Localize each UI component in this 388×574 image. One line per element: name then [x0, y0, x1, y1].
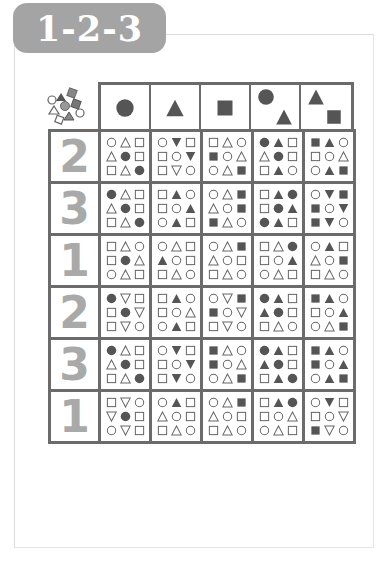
square-outline-icon [259, 255, 270, 266]
circle-outline-icon [208, 241, 219, 252]
puzzle-cell-r1-c5[interactable] [305, 132, 353, 181]
circle-outline-icon [324, 307, 335, 318]
puzzle-cell-r5-c1[interactable] [101, 340, 149, 389]
square-outline-icon [106, 321, 117, 332]
triangle-outline-icon [222, 269, 233, 280]
inverted-triangle-filled-icon [324, 189, 335, 200]
triangle-outline-icon [273, 321, 284, 332]
circle-outline-icon [171, 255, 182, 266]
circle-outline-icon [157, 321, 168, 332]
triangle-outline-icon [310, 255, 321, 266]
circle-outline-icon [208, 165, 219, 176]
square-outline-icon [287, 151, 298, 162]
puzzle-cell-r6-c1[interactable] [101, 392, 149, 441]
square-outline-icon [134, 359, 145, 370]
square-filled-icon [208, 359, 219, 370]
puzzle-cell-r3-c2[interactable] [152, 236, 200, 285]
square-outline-icon [185, 217, 196, 228]
puzzle-cell-r5-c2[interactable] [152, 340, 200, 389]
square-outline-icon [134, 189, 145, 200]
circle-outline-icon [222, 411, 233, 422]
square-outline-icon [157, 189, 168, 200]
row-number-label: 2 [59, 135, 90, 179]
puzzle-cell-r3-c4[interactable] [254, 236, 302, 285]
puzzle-cell-r2-c4[interactable] [254, 184, 302, 233]
row-number-label: 1 [59, 395, 90, 439]
square-outline-icon [134, 293, 145, 304]
triangle-outline-icon [259, 151, 270, 162]
puzzle-cell-r4-c2[interactable] [152, 288, 200, 337]
puzzle-cell-r4-c5[interactable] [305, 288, 353, 337]
square-filled-icon [236, 165, 247, 176]
circle-outline-icon [222, 203, 233, 214]
square-outline-icon [259, 411, 270, 422]
circle-outline-icon [222, 151, 233, 162]
puzzle-cell-r4-c4[interactable] [254, 288, 302, 337]
puzzle-cell-r2-c2[interactable] [152, 184, 200, 233]
square-outline-icon [259, 373, 270, 384]
triangle-outline-icon [222, 189, 233, 200]
puzzle-cell-r4-c3[interactable] [203, 288, 251, 337]
circle-outline-icon [106, 269, 117, 280]
circle-filled-icon [115, 98, 135, 118]
puzzle-cell-r3-c5[interactable] [305, 236, 353, 285]
square-outline-icon [287, 137, 298, 148]
triangle-filled-icon [157, 255, 168, 266]
square-outline-icon [287, 345, 298, 356]
puzzle-cell-r1-c4[interactable] [254, 132, 302, 181]
circle-filled-icon [259, 345, 270, 356]
puzzle-cell-r3-c3[interactable] [203, 236, 251, 285]
puzzle-cell-r2-c5[interactable] [305, 184, 353, 233]
triangle-filled-icon [324, 345, 335, 356]
triangle-outline-icon [106, 359, 117, 370]
puzzle-cell-r6-c5[interactable] [305, 392, 353, 441]
inverted-triangle-filled-icon [171, 345, 182, 356]
triangle-outline-icon [120, 373, 131, 384]
puzzle-cell-r5-c4[interactable] [254, 340, 302, 389]
circle-filled-icon [134, 165, 145, 176]
square-outline-icon [134, 411, 145, 422]
puzzle-cell-r2-c1[interactable] [101, 184, 149, 233]
triangle-filled-icon [185, 203, 196, 214]
circle-outline-icon [338, 425, 349, 436]
puzzle-cell-r6-c3[interactable] [203, 392, 251, 441]
triangle-outline-icon [222, 373, 233, 384]
title-tab: 1-2-3 [13, 3, 166, 53]
square-filled-icon [338, 165, 349, 176]
puzzle-cell-r6-c4[interactable] [254, 392, 302, 441]
square-outline-icon [208, 425, 219, 436]
square-filled-icon [236, 397, 247, 408]
triangle-outline-icon [120, 217, 131, 228]
circle-outline-icon [338, 293, 349, 304]
circle-filled-icon [120, 307, 131, 318]
square-outline-icon [106, 397, 117, 408]
square-filled-icon [208, 345, 219, 356]
puzzle-cell-r6-c2[interactable] [152, 392, 200, 441]
square-outline-icon [287, 359, 298, 370]
puzzle-cell-r5-c3[interactable] [203, 340, 251, 389]
triangle-outline-icon [134, 255, 145, 266]
puzzle-body: 231231 [48, 129, 356, 444]
puzzle-cell-r1-c2[interactable] [152, 132, 200, 181]
column-header-row [98, 82, 354, 132]
triangle-filled-icon [171, 293, 182, 304]
square-outline-icon [134, 345, 145, 356]
puzzle-cell-r5-c5[interactable] [305, 340, 353, 389]
square-outline-icon [310, 307, 321, 318]
puzzle-cell-r1-c1[interactable] [101, 132, 149, 181]
puzzle-cell-r1-c3[interactable] [203, 132, 251, 181]
triangle-outline-icon [106, 203, 117, 214]
square-filled-icon [236, 203, 247, 214]
square-outline-icon [236, 411, 247, 422]
triangle-outline-icon [208, 411, 219, 422]
puzzle-cell-r2-c3[interactable] [203, 184, 251, 233]
circle-filled-icon [287, 397, 298, 408]
triangle-filled-icon [338, 307, 349, 318]
triangle-outline-icon [222, 397, 233, 408]
puzzle-cell-r4-c1[interactable] [101, 288, 149, 337]
square-filled-icon [338, 255, 349, 266]
puzzle-cell-r3-c1[interactable] [101, 236, 149, 285]
inverted-triangle-outline-icon [120, 397, 131, 408]
square-outline-icon [106, 255, 117, 266]
circle-outline-icon [236, 321, 247, 332]
